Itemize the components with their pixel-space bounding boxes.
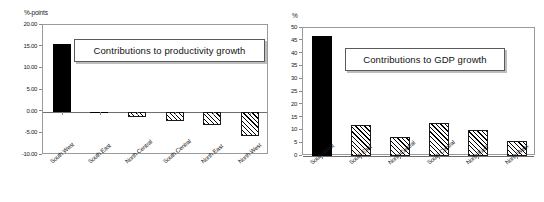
x-axis-tick-mark <box>175 112 176 115</box>
y-axis-tick: 40 <box>291 50 302 56</box>
y-axis-tick-mark <box>39 45 42 46</box>
y-axis-tick-mark <box>39 154 42 155</box>
y-axis-tick: 5 <box>294 139 302 145</box>
y-axis-tick: 30 <box>291 75 302 81</box>
y-axis-tick-mark <box>39 67 42 68</box>
y-axis-tick-label: 50 <box>291 24 299 30</box>
x-axis-tick-mark <box>250 112 251 115</box>
bar <box>53 44 71 112</box>
title-text-gdp: Contributions to GDP growth <box>363 54 486 65</box>
bar-slot <box>342 28 381 154</box>
y-axis-tick: 15.00 <box>23 43 42 49</box>
y-axis-tick-mark <box>299 129 302 130</box>
y-axis-tick: 35 <box>291 62 302 68</box>
y-axis-tick-label: 15 <box>291 114 299 120</box>
y-axis-tick-label: 35 <box>291 62 299 68</box>
y-axis-tick-mark <box>39 24 42 25</box>
y-axis-tick-mark <box>299 27 302 28</box>
y-axis-tick-label: 40 <box>291 50 299 56</box>
bar <box>312 36 332 156</box>
y-axis-tick-label: 20.00 <box>23 21 39 27</box>
y-axis-tick-mark <box>299 155 302 156</box>
y-axis-tick-mark <box>299 103 302 104</box>
y-axis-tick: 50 <box>291 24 302 30</box>
y-axis-tick: 45 <box>291 37 302 43</box>
y-axis-tick-label: 20 <box>291 101 299 107</box>
y-axis-tick-label: 25 <box>291 88 299 94</box>
y-axis-tick-label: 10 <box>291 126 299 132</box>
y-axis-tick-label: -5.00 <box>25 129 39 135</box>
chart-panel-productivity: %-points 20.0015.0010.005.000.00-5.00-10… <box>0 0 272 202</box>
title-box-productivity: Contributions to productivity growth <box>74 39 265 62</box>
y-axis-tick-label: 45 <box>291 37 299 43</box>
y-axis-tick-mark <box>39 89 42 90</box>
y-axis-tick-mark <box>39 110 42 111</box>
y-axis-tick: 0 <box>294 152 302 158</box>
y-axis-tick-mark <box>299 142 302 143</box>
y-axis-tick-mark <box>299 116 302 117</box>
bar-slot <box>381 28 420 154</box>
y-axis-tick-label: 15.00 <box>23 43 39 49</box>
bar-slot <box>458 28 497 154</box>
y-axis-tick-mark <box>39 132 42 133</box>
y-axis-tick: -10.00 <box>22 151 42 157</box>
figure-two-bar-charts: %-points 20.0015.0010.005.000.00-5.00-10… <box>0 0 544 202</box>
chart-panel-gdp: % 50454035302520151050 South WestSouth E… <box>272 0 544 202</box>
bar-slot <box>303 28 342 154</box>
bar-slot <box>497 28 536 154</box>
y-axis-tick-label: 30 <box>291 75 299 81</box>
y-axis-tick-mark <box>299 78 302 79</box>
y-axis-tick-label: -10.00 <box>22 151 39 157</box>
y-axis-tick-mark <box>299 65 302 66</box>
y-axis-tick: 10.00 <box>23 64 42 70</box>
title-text-productivity: Contributions to productivity growth <box>94 45 246 56</box>
y-axis-tick-mark <box>299 91 302 92</box>
y-axis-tick: 15 <box>291 114 302 120</box>
y-axis-tick: 0.00 <box>27 108 42 114</box>
y-axis-tick-label: 10.00 <box>23 64 39 70</box>
x-axis-tick-mark <box>100 112 101 115</box>
y-axis-tick-label: 5.00 <box>27 86 39 92</box>
x-axis-tick-mark <box>213 112 214 115</box>
zero-axis-line <box>303 156 534 157</box>
x-axis-tick-mark <box>62 112 63 115</box>
y-axis-tick-label: 0.00 <box>27 108 39 114</box>
x-axis-tick-mark <box>137 112 138 115</box>
y-axis-tick: 20 <box>291 101 302 107</box>
title-box-gdp: Contributions to GDP growth <box>345 48 505 71</box>
y-axis-tick-mark <box>299 52 302 53</box>
bar-slot <box>420 28 459 154</box>
y-axis-tick: 25 <box>291 88 302 94</box>
y-axis-unit-label: %-points <box>24 9 48 16</box>
y-axis-tick: 5.00 <box>27 86 42 92</box>
y-axis-tick-mark <box>299 39 302 40</box>
plot-area-gdp <box>302 27 535 155</box>
y-axis-tick: 20.00 <box>23 21 42 27</box>
bar <box>241 112 259 136</box>
y-axis-tick: -5.00 <box>25 129 42 135</box>
bar-series-gdp <box>303 28 534 154</box>
y-axis-unit-label: % <box>292 12 298 19</box>
y-axis-tick: 10 <box>291 126 302 132</box>
